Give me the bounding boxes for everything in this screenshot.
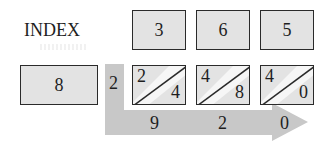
index-value-box: 8 bbox=[20, 65, 98, 105]
product-tens: 2 bbox=[137, 66, 146, 87]
top-digit: 3 bbox=[155, 20, 164, 41]
result-digit-2: 2 bbox=[218, 113, 227, 134]
top-digit: 6 bbox=[219, 20, 228, 41]
product-cell-2: 4 8 bbox=[196, 65, 250, 105]
product-tens: 4 bbox=[201, 66, 210, 87]
top-digit-box-2: 6 bbox=[196, 10, 250, 50]
index-label-shadow bbox=[40, 44, 86, 50]
product-cell-3: 4 0 bbox=[260, 65, 314, 105]
index-value: 8 bbox=[55, 75, 64, 96]
product-cell-1: 2 4 bbox=[132, 65, 186, 105]
product-tens: 4 bbox=[265, 66, 274, 87]
carry-in-digit: 2 bbox=[109, 73, 118, 94]
result-digit-1: 9 bbox=[150, 113, 159, 134]
index-label: INDEX bbox=[24, 20, 80, 41]
product-ones: 0 bbox=[299, 82, 308, 103]
result-digit-3: 0 bbox=[280, 113, 289, 134]
product-ones: 8 bbox=[235, 82, 244, 103]
top-digit-box-3: 5 bbox=[260, 10, 314, 50]
top-digit: 5 bbox=[283, 20, 292, 41]
product-ones: 4 bbox=[171, 82, 180, 103]
top-digit-box-1: 3 bbox=[132, 10, 186, 50]
